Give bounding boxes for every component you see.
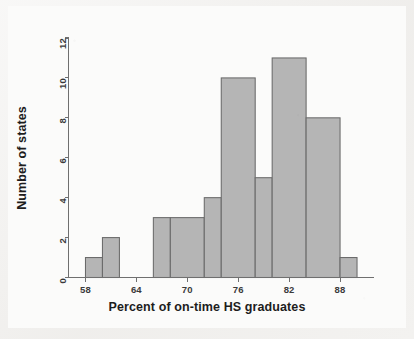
bars-group: [85, 58, 357, 278]
y-axis-tick-label: 6: [56, 158, 67, 163]
histogram-bar: [340, 258, 357, 278]
x-axis-tick-label: 64: [131, 284, 142, 295]
x-axis-tick-label: 76: [233, 284, 244, 295]
histogram-bar: [272, 58, 306, 278]
y-axis-tick-label: 2: [56, 238, 67, 243]
y-axis-tick-label: 10: [56, 78, 67, 89]
x-axis-ticks: [85, 278, 340, 282]
histogram-bar: [255, 178, 272, 278]
histogram-plot: [0, 0, 414, 339]
histogram-bar: [221, 78, 255, 278]
x-axis-tick-label: 58: [80, 284, 91, 295]
y-axis-tick-label: 12: [56, 38, 67, 49]
histogram-bar: [85, 258, 102, 278]
x-axis-tick-label: 88: [335, 284, 346, 295]
y-axis-title: Number of states: [15, 106, 29, 210]
histogram-bar: [306, 118, 340, 278]
histogram-bar: [153, 218, 170, 278]
x-axis-title: Percent of on-time HS graduates: [0, 300, 414, 314]
y-axis-tick-label: 0: [56, 278, 67, 283]
histogram-bar: [102, 238, 119, 278]
x-axis-tick-label: 82: [284, 284, 295, 295]
scanned-page: 586470768288 024681012 Percent of on-tim…: [0, 0, 414, 339]
histogram-bar: [204, 198, 221, 278]
histogram-bar: [170, 218, 204, 278]
y-axis-tick-label: 4: [56, 198, 67, 203]
x-axis-tick-label: 70: [182, 284, 193, 295]
y-axis-tick-label: 8: [56, 118, 67, 123]
